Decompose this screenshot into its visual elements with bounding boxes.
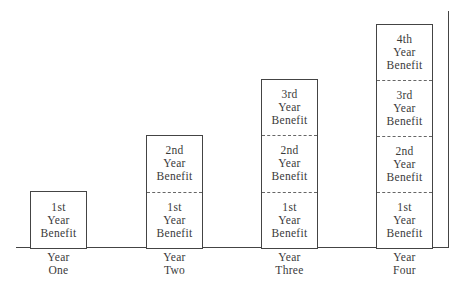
segment-1st-year-benefit: 1st Year Benefit — [262, 192, 317, 248]
x-label-year-one: Year One — [30, 251, 87, 277]
x-label-year-four: Year Four — [376, 251, 433, 277]
bar-year-one: 1st Year Benefit — [30, 191, 87, 249]
segment-label: 2nd Year Benefit — [157, 144, 193, 183]
segment-label: 4th Year Benefit — [387, 33, 423, 72]
segment-2nd-year-benefit: 2nd Year Benefit — [262, 135, 317, 191]
x-label-year-two: Year Two — [146, 251, 203, 277]
segment-label: 3rd Year Benefit — [272, 88, 308, 127]
segment-3rd-year-benefit: 3rd Year Benefit — [377, 80, 432, 136]
segment-label: 1st Year Benefit — [41, 201, 77, 240]
bar-year-three: 3rd Year Benefit 2nd Year Benefit 1st Ye… — [261, 79, 318, 249]
y-axis-line — [448, 11, 449, 248]
bar-year-four: 4th Year Benefit 3rd Year Benefit 2nd Ye… — [376, 24, 433, 249]
x-label-year-three: Year Three — [261, 251, 318, 277]
segment-label: 2nd Year Benefit — [272, 144, 308, 183]
segment-2nd-year-benefit: 2nd Year Benefit — [147, 136, 202, 192]
segment-1st-year-benefit: 1st Year Benefit — [147, 192, 202, 249]
segment-label: 2nd Year Benefit — [387, 145, 423, 184]
segment-3rd-year-benefit: 3rd Year Benefit — [262, 80, 317, 135]
segment-4th-year-benefit: 4th Year Benefit — [377, 25, 432, 80]
segment-label: 3rd Year Benefit — [387, 89, 423, 128]
segment-1st-year-benefit: 1st Year Benefit — [31, 192, 86, 248]
bar-year-two: 2nd Year Benefit 1st Year Benefit — [146, 135, 203, 249]
segment-1st-year-benefit: 1st Year Benefit — [377, 192, 432, 248]
segment-label: 1st Year Benefit — [272, 201, 308, 240]
segment-label: 1st Year Benefit — [157, 201, 193, 240]
segment-label: 1st Year Benefit — [387, 201, 423, 240]
segment-2nd-year-benefit: 2nd Year Benefit — [377, 136, 432, 192]
